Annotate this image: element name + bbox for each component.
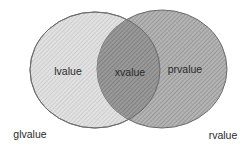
venn-diagram: lvalue xvalue prvalue glvalue rvalue	[0, 0, 249, 148]
set-label-right: rvalue	[209, 129, 238, 141]
region-label-right-only: prvalue	[168, 63, 203, 75]
set-label-left: glvalue	[13, 128, 46, 140]
region-label-intersection: xvalue	[115, 66, 146, 78]
region-label-left-only: lvalue	[54, 65, 82, 77]
